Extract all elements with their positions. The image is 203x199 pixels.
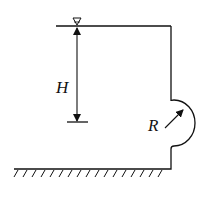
diagram-svg: H R (0, 0, 203, 199)
ground-hatching (14, 170, 162, 177)
water-surface-triangle-icon (73, 18, 81, 25)
tank-diagram: H R (0, 0, 203, 199)
tank-wall-with-hemisphere (14, 26, 195, 169)
radius-label: R (147, 116, 159, 135)
depth-label: H (55, 78, 70, 97)
radius-arrow (165, 110, 183, 128)
